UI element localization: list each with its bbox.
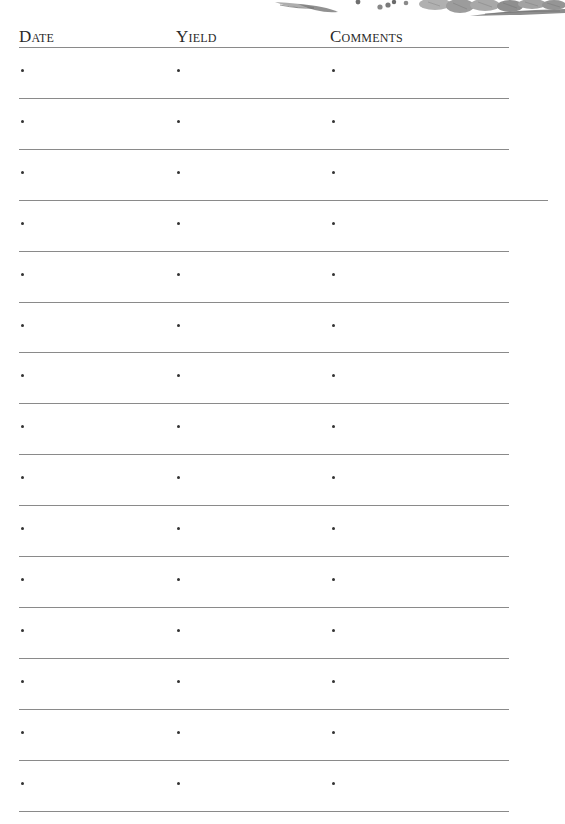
bullet-icon xyxy=(177,120,180,123)
vegetable-illustration-icon xyxy=(270,0,565,18)
bullet-icon xyxy=(21,578,24,581)
table-row xyxy=(19,607,509,658)
bullet-icon xyxy=(332,578,335,581)
table-row xyxy=(19,760,509,811)
bullet-icon xyxy=(21,374,24,377)
bullet-icon xyxy=(332,324,335,327)
bullet-icon xyxy=(177,680,180,683)
table-row xyxy=(19,505,509,556)
bullet-icon xyxy=(177,578,180,581)
column-header-date: Date xyxy=(19,27,54,47)
table-row xyxy=(19,352,509,403)
table-row xyxy=(19,98,509,149)
bullet-icon xyxy=(177,273,180,276)
bullet-icon xyxy=(21,120,24,123)
column-header-yield: Yield xyxy=(176,27,217,47)
bullet-icon xyxy=(21,527,24,530)
bullet-icon xyxy=(332,731,335,734)
bullet-icon xyxy=(21,69,24,72)
bullet-icon xyxy=(332,69,335,72)
bullet-icon xyxy=(332,374,335,377)
bullet-icon xyxy=(177,324,180,327)
column-header-comments: Comments xyxy=(330,27,403,47)
bullet-icon xyxy=(177,222,180,225)
bullet-icon xyxy=(177,425,180,428)
table-row xyxy=(19,47,509,98)
bullet-icon xyxy=(332,425,335,428)
bullet-icon xyxy=(332,120,335,123)
table-header: Date Yield Comments xyxy=(19,27,509,47)
bullet-icon xyxy=(332,476,335,479)
bullet-icon xyxy=(21,222,24,225)
bullet-icon xyxy=(332,527,335,530)
bullet-icon xyxy=(21,171,24,174)
bullet-icon xyxy=(21,680,24,683)
bullet-icon xyxy=(177,171,180,174)
bullet-icon xyxy=(21,476,24,479)
bullet-icon xyxy=(177,731,180,734)
bullet-icon xyxy=(332,629,335,632)
bullet-icon xyxy=(21,425,24,428)
table-row xyxy=(19,556,509,607)
bullet-icon xyxy=(177,527,180,530)
bullet-icon xyxy=(177,782,180,785)
table-row xyxy=(19,251,509,302)
bullet-icon xyxy=(21,782,24,785)
table-row xyxy=(19,709,509,760)
bullet-icon xyxy=(332,222,335,225)
bullet-icon xyxy=(332,680,335,683)
bullet-icon xyxy=(21,273,24,276)
bullet-icon xyxy=(177,69,180,72)
bullet-icon xyxy=(332,171,335,174)
bullet-icon xyxy=(21,324,24,327)
bullet-icon xyxy=(21,731,24,734)
table-row xyxy=(19,658,509,709)
table-row xyxy=(19,302,509,353)
table-row xyxy=(19,149,509,200)
bullet-icon xyxy=(177,374,180,377)
table-row xyxy=(19,454,509,505)
table-row xyxy=(19,403,509,454)
bullet-icon xyxy=(332,782,335,785)
bullet-icon xyxy=(21,629,24,632)
row-rule xyxy=(19,811,509,812)
bullet-icon xyxy=(332,273,335,276)
bullet-icon xyxy=(177,476,180,479)
bullet-icon xyxy=(177,629,180,632)
table-row xyxy=(19,200,509,251)
